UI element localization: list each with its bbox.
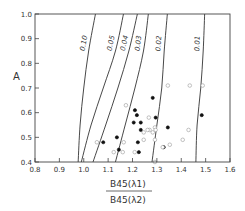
svg-text:1.4: 1.4 bbox=[176, 166, 188, 174]
svg-text:1.5: 1.5 bbox=[200, 166, 211, 174]
y-axis-ticks: 0.40.50.60.70.80.91.0 bbox=[21, 11, 39, 167]
svg-text:1.1: 1.1 bbox=[103, 166, 114, 174]
svg-text:0.02: 0.02 bbox=[154, 35, 163, 52]
svg-text:0.8: 0.8 bbox=[29, 166, 40, 174]
x-axis-ticks: 0.80.91.01.11.21.31.41.51.6 bbox=[29, 158, 236, 174]
svg-text:0.04: 0.04 bbox=[119, 35, 130, 52]
svg-text:0.05: 0.05 bbox=[106, 34, 117, 51]
data-points bbox=[95, 84, 204, 164]
svg-text:1.2: 1.2 bbox=[127, 166, 138, 174]
x-axis-label-numerator: B45(λ1) bbox=[110, 179, 146, 189]
svg-text:1.6: 1.6 bbox=[224, 166, 236, 174]
svg-text:0.01: 0.01 bbox=[193, 36, 202, 52]
svg-text:1.3: 1.3 bbox=[151, 166, 162, 174]
scatter-chart: 0.80.91.01.11.21.31.41.51.6 0.40.50.60.7… bbox=[0, 0, 245, 211]
svg-text:1.0: 1.0 bbox=[78, 166, 89, 174]
svg-text:0.5: 0.5 bbox=[21, 134, 32, 142]
svg-text:0.10: 0.10 bbox=[79, 34, 90, 51]
y-axis-label: A bbox=[13, 71, 20, 82]
svg-text:0.6: 0.6 bbox=[21, 109, 33, 117]
svg-text:0.4: 0.4 bbox=[21, 159, 33, 167]
svg-text:0.7: 0.7 bbox=[21, 85, 32, 93]
x-axis-label-denominator: B45(λ2) bbox=[110, 195, 146, 205]
x-axis-label: B45(λ1) B45(λ2) bbox=[106, 179, 152, 205]
curve-labels: 0.100.050.040.030.020.01 bbox=[79, 34, 202, 51]
svg-text:0.9: 0.9 bbox=[21, 35, 32, 43]
svg-text:0.9: 0.9 bbox=[54, 166, 65, 174]
svg-text:0.03: 0.03 bbox=[133, 35, 143, 52]
svg-text:0.8: 0.8 bbox=[21, 60, 32, 68]
svg-text:1.0: 1.0 bbox=[21, 11, 32, 19]
